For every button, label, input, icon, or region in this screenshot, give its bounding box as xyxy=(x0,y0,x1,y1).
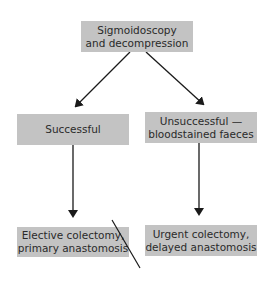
diagonal-slash-line xyxy=(112,220,140,268)
flowchart: Sigmoidoscopy and decompression Successf… xyxy=(0,0,273,282)
slash-mark xyxy=(0,0,273,282)
